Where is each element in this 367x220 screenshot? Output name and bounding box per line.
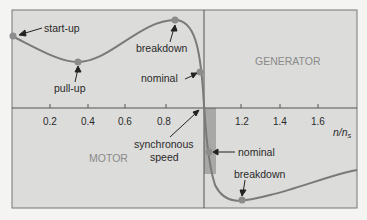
tick-1.2: 1.2 (235, 116, 249, 127)
label-nominal-motor: nominal (141, 72, 178, 84)
label-start-up: start-up (44, 22, 80, 34)
label-synchronous: synchronous (134, 138, 194, 150)
tick-1.4: 1.4 (273, 116, 287, 127)
tick-0.4: 0.4 (81, 116, 95, 127)
label-pull-up: pull-up (54, 82, 86, 94)
nominal-motor-point (197, 69, 204, 76)
plot-frame (12, 10, 357, 208)
label-breakdown-motor: breakdown (136, 42, 188, 54)
label-breakdown-generator: breakdown (234, 168, 286, 180)
tick-0.6: 0.6 (118, 116, 132, 127)
tick-0.2: 0.2 (43, 116, 57, 127)
label-motor-region: MOTOR (89, 152, 128, 164)
breakdown-generator-point (239, 197, 246, 204)
label-nominal-generator: nominal (238, 146, 275, 158)
pull-up-point (75, 59, 82, 66)
label-generator-region: GENERATOR (255, 55, 321, 67)
nominal-generator-point (206, 149, 213, 156)
label-speed: speed (150, 151, 179, 163)
breakdown-motor-point (172, 17, 179, 24)
torque-speed-diagram: 0.2 0.4 0.6 0.8 1.2 1.4 1.6 start-up pul… (0, 0, 367, 220)
tick-1.6: 1.6 (311, 116, 325, 127)
tick-0.8: 0.8 (157, 116, 171, 127)
start-up-point (10, 33, 17, 40)
